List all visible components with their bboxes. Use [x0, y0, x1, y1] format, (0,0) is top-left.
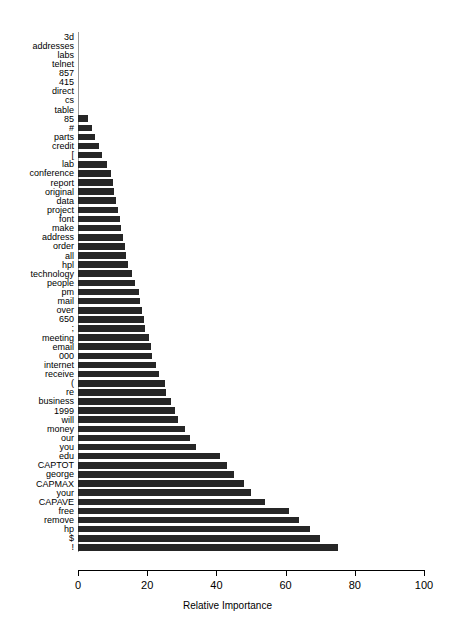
bar-row: hpl [78, 261, 424, 268]
bar [78, 234, 123, 241]
bar-row: 000 [78, 353, 424, 360]
bar-row: hp [78, 526, 424, 533]
x-axis-title: Relative Importance [0, 600, 455, 611]
bar [78, 416, 178, 423]
bar-row: make [78, 225, 424, 232]
bar-row: 1999 [78, 407, 424, 414]
bar [78, 243, 125, 250]
bar [78, 499, 265, 506]
bar [78, 343, 151, 350]
x-axis-tick [147, 570, 148, 576]
bar-row: report [78, 179, 424, 186]
bar [78, 307, 142, 314]
bar-row: CAPMAX [78, 480, 424, 487]
bar [78, 161, 107, 168]
bar [78, 435, 190, 442]
bar [78, 517, 299, 524]
bar-row: font [78, 216, 424, 223]
plot-area: 3daddresseslabstelnet857415directcstable… [78, 32, 424, 552]
bar [78, 334, 149, 341]
bar [78, 471, 234, 478]
bar-row: email [78, 343, 424, 350]
bar-row: data [78, 197, 424, 204]
bar-row: mail [78, 298, 424, 305]
bar [78, 170, 111, 177]
bar-row: edu [78, 453, 424, 460]
bar-row: our [78, 435, 424, 442]
bar [78, 134, 95, 141]
bar [78, 508, 289, 515]
bar [78, 252, 126, 259]
bar-row: credit [78, 143, 424, 150]
bar-row: original [78, 188, 424, 195]
bar-row: will [78, 416, 424, 423]
bar-row: project [78, 207, 424, 214]
bar [78, 480, 244, 487]
bar [78, 225, 121, 232]
x-axis-tick-label: 20 [141, 579, 153, 591]
bar-row: table [78, 106, 424, 113]
bar-row: receive [78, 371, 424, 378]
bar-category-label: receive [45, 370, 74, 379]
bar-row: internet [78, 362, 424, 369]
bar-row: meeting [78, 334, 424, 341]
bar-row: $ [78, 535, 424, 542]
x-axis-line: 020406080100 [78, 570, 424, 571]
bar-row: 857 [78, 70, 424, 77]
bar [78, 544, 338, 551]
bar-row: george [78, 471, 424, 478]
bar-row: CAPAVE [78, 499, 424, 506]
bar [78, 371, 159, 378]
variable-importance-chart: 3daddresseslabstelnet857415directcstable… [0, 0, 455, 630]
bar-row: you [78, 444, 424, 451]
bar [78, 143, 99, 150]
x-axis-tick [355, 570, 356, 576]
bar-row: remove [78, 517, 424, 524]
x-axis-tick [424, 570, 425, 576]
bar-row: cs [78, 97, 424, 104]
bar-row: business [78, 398, 424, 405]
x-axis-tick-label: 0 [75, 579, 81, 591]
bar-row: people [78, 280, 424, 287]
bar-row: 650 [78, 316, 424, 323]
bar [78, 152, 102, 159]
bar-category-label: ! [71, 543, 74, 552]
bar-row: re [78, 389, 424, 396]
bar [78, 125, 92, 132]
bar-row: # [78, 125, 424, 132]
bar-row: order [78, 243, 424, 250]
bar [78, 115, 88, 122]
x-axis-tick-label: 40 [210, 579, 222, 591]
bar-row: free [78, 508, 424, 515]
bar-row: parts [78, 134, 424, 141]
bar [78, 462, 227, 469]
x-axis-tick-label: 100 [415, 579, 433, 591]
bar [78, 188, 114, 195]
bar [78, 407, 175, 414]
bar [78, 489, 251, 496]
bar-row: labs [78, 52, 424, 59]
bar-row: ( [78, 380, 424, 387]
x-axis-tick [216, 570, 217, 576]
bar-row: 3d [78, 33, 424, 40]
bar-row: pm [78, 289, 424, 296]
bar-row: your [78, 489, 424, 496]
bar [78, 316, 144, 323]
x-axis-tick-label: 80 [349, 579, 361, 591]
bar [78, 426, 185, 433]
bar-row: 85 [78, 115, 424, 122]
bar [78, 453, 220, 460]
bar-row: all [78, 252, 424, 259]
bar-row: money [78, 426, 424, 433]
bar-row: addresses [78, 42, 424, 49]
bar [78, 261, 128, 268]
bar [78, 270, 132, 277]
bar [78, 362, 156, 369]
bar [78, 280, 135, 287]
bar [78, 389, 166, 396]
bar [78, 216, 120, 223]
bar [78, 380, 165, 387]
x-axis-tick-label: 60 [279, 579, 291, 591]
bar [78, 179, 113, 186]
bar [78, 298, 140, 305]
